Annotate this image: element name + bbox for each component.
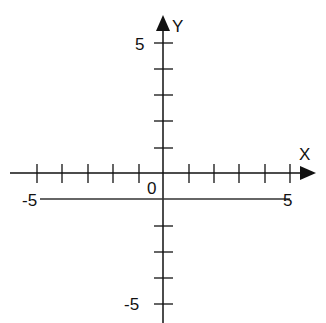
y-axis-arrow-icon bbox=[156, 15, 170, 31]
y-axis-label: Y bbox=[172, 17, 183, 36]
y-min-label: -5 bbox=[124, 295, 139, 314]
x-min-label: -5 bbox=[22, 191, 37, 210]
x-axis-arrow-icon bbox=[300, 166, 316, 180]
origin-label: 0 bbox=[147, 179, 156, 198]
coordinate-plane: Y X 5 -5 0 -5 5 bbox=[0, 0, 326, 323]
x-axis-label: X bbox=[299, 145, 310, 164]
x-max-label: 5 bbox=[283, 191, 292, 210]
y-max-label: 5 bbox=[135, 35, 144, 54]
